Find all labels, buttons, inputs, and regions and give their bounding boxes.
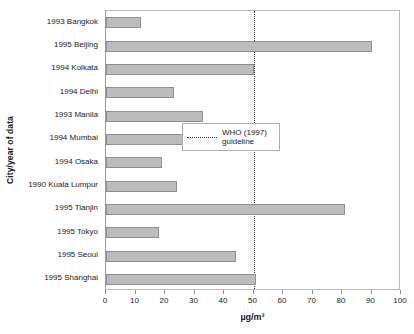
x-axis-title: µg/m³ [105,312,400,322]
legend-dotted-line-icon [187,137,217,138]
bar [106,41,372,52]
category-label: 1994 Delhi [60,81,98,103]
category-label: 1995 Seoul [58,244,98,266]
x-axis-tick-label: 10 [130,296,139,305]
category-axis-labels: 1993 Bangkok1995 Beijing1994 Kolkata1994… [16,10,102,290]
bar [106,251,236,262]
x-axis-tick [164,290,165,294]
x-axis-tick-label: 30 [189,296,198,305]
bar [106,157,162,168]
x-axis-tick [312,290,313,294]
bar [106,227,159,238]
y-axis-title-label: City/year of data [5,116,15,184]
x-axis-tick-label: 70 [307,296,316,305]
x-axis-tick-label: 20 [160,296,169,305]
x-axis-tick-label: 0 [103,296,107,305]
x-axis-tick [371,290,372,294]
x-axis-tick [400,290,401,294]
category-label: 1995 Shanghai [44,267,98,289]
x-axis-tick [135,290,136,294]
x-axis-tick [341,290,342,294]
category-label: 1994 Osaka [55,151,98,173]
bar [106,111,203,122]
x-axis-tick-label: 90 [366,296,375,305]
category-label: 1995 Tokyo [57,221,98,243]
category-label: 1995 Beijing [54,34,98,56]
bar [106,87,174,98]
bar [106,204,345,215]
bar [106,17,141,28]
bar [106,64,254,75]
x-axis-tick-label: 80 [337,296,346,305]
category-label: 1994 Kolkata [51,57,98,79]
bar-chart: City/year of data 1993 Bangkok1995 Beiji… [0,0,414,334]
x-axis-tick-labels: 0102030405060708090100 [105,296,400,308]
x-axis-tick-label: 100 [393,296,406,305]
x-axis-tick [223,290,224,294]
category-label: 1990 Kuala Lumpur [28,174,98,196]
category-label: 1993 Bangkok [47,11,98,33]
category-label: 1994 Mumbai [50,127,98,149]
x-axis-tick [105,290,106,294]
x-axis-tick-label: 60 [278,296,287,305]
x-axis-tick [282,290,283,294]
x-axis-tick-label: 40 [219,296,228,305]
bar [106,274,256,285]
x-axis-tick [194,290,195,294]
legend: WHO (1997) guideline [182,123,280,151]
x-axis-tick [253,290,254,294]
category-label: 1995 Tianjin [55,197,98,219]
x-axis-tick-label: 50 [248,296,257,305]
legend-label: WHO (1997) guideline [222,128,267,147]
category-label: 1993 Manila [54,104,98,126]
bar [106,181,177,192]
